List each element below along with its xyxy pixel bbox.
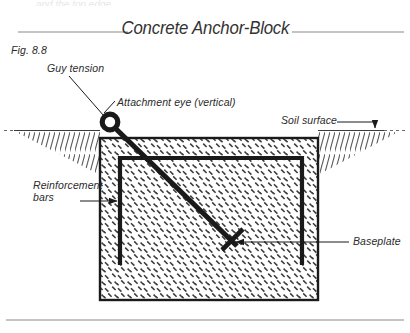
figure-title-text: Concrete Anchor-Block: [121, 18, 289, 39]
label-reinforcement-bars-line2: bars: [33, 191, 54, 203]
anchor-block-diagram: [0, 0, 410, 333]
label-guy-tension: Guy tension: [47, 63, 104, 75]
label-attachment-eye: Attachment eye (vertical): [117, 97, 236, 109]
leader-attachment-eye: [104, 101, 115, 113]
label-reinforcement-bars: Reinforcementbars: [33, 180, 103, 204]
figure-number: Fig. 8.8: [11, 45, 47, 57]
attachment-eye: [102, 114, 118, 130]
label-reinforcement-bars-line1: Reinforcement: [33, 179, 103, 191]
label-soil-surface: Soil surface: [281, 115, 337, 127]
label-baseplate: Baseplate: [353, 236, 401, 248]
figure-title: Concrete Anchor-Block: [0, 18, 410, 39]
figure-page: and the top edge: [0, 0, 410, 333]
leader-guy-tension: [69, 76, 104, 116]
